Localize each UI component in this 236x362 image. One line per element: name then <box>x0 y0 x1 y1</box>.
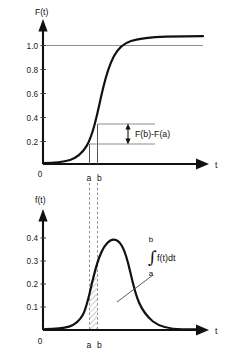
cdf-xtick-label-a: a <box>87 173 92 183</box>
cdf-ytick-label-1.0: 1.0 <box>27 42 39 51</box>
integral-upper-limit-label: b <box>149 235 154 244</box>
cdf-ytick-label-0.8: 0.8 <box>27 66 39 75</box>
cdf-ytick-label-0.2: 0.2 <box>27 138 39 147</box>
cdf-ytick-label-0.4: 0.4 <box>27 114 39 123</box>
pdf-ytick-label-0.2: 0.2 <box>27 280 39 289</box>
pdf-origin-label: 0 <box>38 337 43 346</box>
pdf-xtick-label-a: a <box>87 340 92 350</box>
pdf-xtick-label-b: b <box>97 340 102 350</box>
integral-integrand-label: f(t)dt <box>157 253 176 263</box>
pdf-ytick-label-0.4: 0.4 <box>27 234 39 243</box>
integral-symbol: ∫ <box>148 247 157 267</box>
pdf-ytick-label-0.3: 0.3 <box>27 257 39 266</box>
cdf-ytick-label-0.6: 0.6 <box>27 90 39 99</box>
cdf-origin-label: 0 <box>38 170 43 179</box>
cdf-y-axis-label: F(t) <box>35 7 48 17</box>
cdf-annotation-label: F(b)-F(a) <box>135 129 170 139</box>
figure-root: 1.0 0.8 0.6 0.4 0.2 0 F(t) t F(b)-F(a) a… <box>0 0 236 362</box>
pdf-ytick-label-0.1: 0.1 <box>27 303 39 312</box>
integral-lower-limit-label: a <box>149 269 154 278</box>
cdf-xtick-label-b: b <box>97 173 102 183</box>
pdf-y-axis-label: f(t) <box>35 195 46 205</box>
probability-cdf-pdf-figure: 1.0 0.8 0.6 0.4 0.2 0 F(t) t F(b)-F(a) a… <box>0 0 236 362</box>
